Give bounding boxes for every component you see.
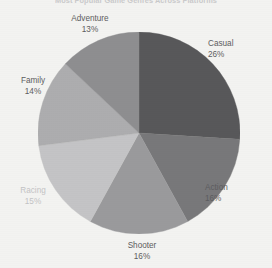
pie-label-shooter-value: 16% [108, 251, 176, 262]
pie-label-racing: Racing 15% [2, 185, 64, 208]
pie-label-shooter-name: Shooter [108, 240, 176, 251]
pie-label-action: Action 16% [205, 182, 267, 205]
pie-label-casual-name: Casual [208, 38, 268, 49]
pie-label-racing-value: 15% [2, 196, 64, 207]
pie-label-casual-value: 26% [208, 49, 268, 60]
pie-label-shooter: Shooter 16% [108, 240, 176, 263]
pie-label-casual: Casual 26% [208, 38, 268, 61]
chart-canvas: Most Popular Game Genres Across Platform… [0, 0, 272, 268]
pie-label-action-value: 16% [205, 193, 267, 204]
pie-label-action-name: Action [205, 182, 267, 193]
pie-label-adventure: Adventure 13% [52, 13, 128, 36]
pie-label-racing-name: Racing [2, 185, 64, 196]
pie-label-family-name: Family [2, 75, 64, 86]
pie-label-adventure-name: Adventure [52, 13, 128, 24]
pie-label-family-value: 14% [2, 86, 64, 97]
chart-title: Most Popular Game Genres Across Platform… [0, 0, 272, 5]
pie-label-adventure-value: 13% [52, 24, 128, 35]
pie-label-family: Family 14% [2, 75, 64, 98]
